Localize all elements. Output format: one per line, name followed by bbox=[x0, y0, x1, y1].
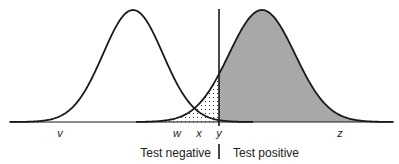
test-positive-label: Test positive bbox=[233, 146, 299, 160]
true-positive-area bbox=[136, 10, 393, 122]
label-z: z bbox=[336, 127, 343, 139]
label-v: v bbox=[57, 127, 64, 139]
distribution-diagram: v w x y z Test negative Test positive bbox=[0, 0, 399, 164]
test-negative-label: Test negative bbox=[140, 146, 211, 160]
label-w: w bbox=[173, 127, 182, 139]
label-x: x bbox=[195, 127, 202, 139]
label-y: y bbox=[215, 127, 223, 139]
